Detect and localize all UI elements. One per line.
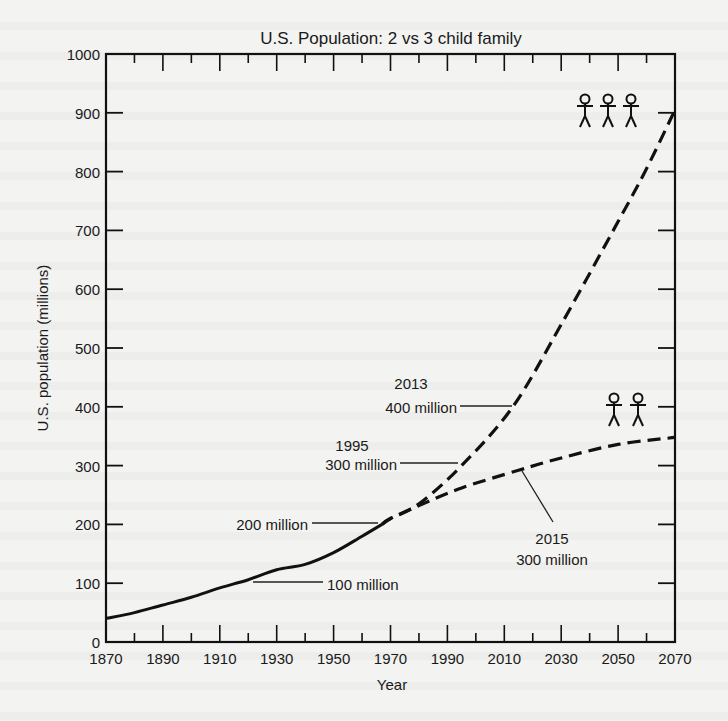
y-axis-ticks: 01002003004005006007008009001000 xyxy=(67,46,123,651)
x-axis-label: Year xyxy=(377,676,407,693)
three-child-family-icon xyxy=(577,95,639,128)
y-tick-label: 0 xyxy=(92,634,100,651)
annotation-2015: 2015 300 million xyxy=(516,471,588,568)
person-icon xyxy=(600,95,616,128)
x-axis-top-ticks xyxy=(134,54,646,71)
annotation-1995: 1995 300 million xyxy=(325,437,458,473)
x-tick-label: 1910 xyxy=(203,650,236,667)
y-tick-label: 200 xyxy=(75,516,100,533)
svg-text:300 million: 300 million xyxy=(516,551,588,568)
x-tick-label: 2070 xyxy=(658,650,691,667)
x-tick-label: 1890 xyxy=(146,650,179,667)
x-tick-label: 1990 xyxy=(431,650,464,667)
person-icon xyxy=(630,394,646,427)
x-axis-ticks: 1870189019101930195019701990201020302050… xyxy=(89,625,691,667)
svg-text:300 million: 300 million xyxy=(325,456,397,473)
x-tick-label: 2030 xyxy=(545,650,578,667)
svg-text:100 million: 100 million xyxy=(327,576,399,593)
x-tick-label: 1970 xyxy=(374,650,407,667)
annotation-100-million: 100 million xyxy=(253,576,399,593)
y-tick-label: 900 xyxy=(75,105,100,122)
y-axis-right-ticks xyxy=(658,113,675,583)
y-tick-label: 800 xyxy=(75,164,100,181)
svg-text:1995: 1995 xyxy=(335,437,368,454)
x-tick-label: 1870 xyxy=(89,650,122,667)
svg-text:400 million: 400 million xyxy=(385,399,457,416)
y-tick-label: 600 xyxy=(75,281,100,298)
historical-line xyxy=(106,524,382,618)
three-child-line xyxy=(382,110,675,525)
x-tick-label: 1930 xyxy=(260,650,293,667)
x-tick-label: 1950 xyxy=(317,650,350,667)
two-child-family-icon xyxy=(606,394,646,427)
person-icon xyxy=(606,394,622,427)
svg-text:200 million: 200 million xyxy=(236,516,308,533)
population-chart: U.S. Population: 2 vs 3 child family U.S… xyxy=(0,0,728,721)
svg-text:2015: 2015 xyxy=(535,530,568,547)
plot-frame xyxy=(106,54,675,642)
annotation-200-million: 200 million xyxy=(236,516,378,533)
y-tick-label: 1000 xyxy=(67,46,100,63)
y-tick-label: 700 xyxy=(75,222,100,239)
person-icon xyxy=(623,95,639,128)
y-tick-label: 100 xyxy=(75,575,100,592)
y-tick-label: 400 xyxy=(75,399,100,416)
y-tick-label: 300 xyxy=(75,458,100,475)
chart-title: U.S. Population: 2 vs 3 child family xyxy=(260,29,522,48)
y-tick-label: 500 xyxy=(75,340,100,357)
person-icon xyxy=(577,95,593,128)
svg-text:2013: 2013 xyxy=(394,375,427,392)
annotation-2013: 2013 400 million xyxy=(385,375,512,416)
y-axis-label: U.S. population (millions) xyxy=(34,265,51,432)
x-tick-label: 2010 xyxy=(488,650,521,667)
x-tick-label: 2050 xyxy=(601,650,634,667)
